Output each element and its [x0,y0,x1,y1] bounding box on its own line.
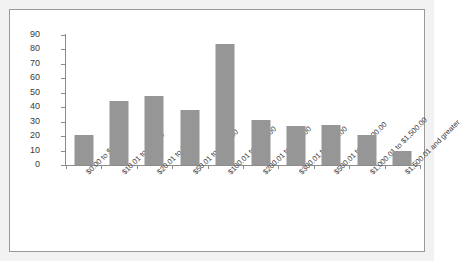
y-axis-tick-mark [61,151,65,152]
y-axis-tick-mark [61,122,65,123]
x-axis-tick-mark [172,165,173,169]
y-axis-tick-label: 0 [0,159,40,169]
y-axis-tick-mark [61,64,65,65]
y-axis-tick-label: 50 [0,87,40,97]
bar-slot [66,35,101,165]
bar-series [66,35,420,165]
bar-slot [208,35,243,165]
bar [74,135,93,165]
bar [251,120,270,165]
bar-slot [385,35,420,165]
y-axis-tick-mark [61,165,65,166]
bar [110,101,129,165]
y-axis-tick-mark [61,136,65,137]
x-axis-tick-mark [66,165,67,169]
bar [393,151,412,165]
y-axis-tick-mark [61,93,65,94]
bar-slot [314,35,349,165]
y-axis-tick-label: 40 [0,101,40,111]
bar-slot [349,35,384,165]
y-axis-tick-label: 30 [0,116,40,126]
y-axis-tick-mark [61,49,65,50]
x-axis-tick-mark [243,165,244,169]
chart-plot-frame: 9080706050403020100 $0.00 to $10.00$10.0… [9,9,425,252]
bar [357,135,376,165]
y-axis-tick-mark [61,35,65,36]
bar-slot [243,35,278,165]
x-axis-tick-mark [349,165,350,169]
y-axis-tick-label: 80 [0,43,40,53]
bar-slot [137,35,172,165]
y-axis-tick-mark [61,107,65,108]
x-axis-tick-mark [420,165,421,169]
bar [180,110,199,165]
y-axis-tick-label: 90 [0,29,40,39]
bar [145,96,164,165]
y-axis-tick-mark [61,78,65,79]
bar [216,44,235,165]
x-axis-tick-mark [278,165,279,169]
bar [322,125,341,165]
bar-slot [278,35,313,165]
y-axis-tick-label: 10 [0,145,40,155]
bar-slot [101,35,136,165]
y-axis-tick-label: 70 [0,58,40,68]
x-axis-tick-mark [101,165,102,169]
bar-slot [172,35,207,165]
y-axis-tick-label: 20 [0,130,40,140]
y-axis-tick-label: 60 [0,72,40,82]
bar [287,126,306,165]
